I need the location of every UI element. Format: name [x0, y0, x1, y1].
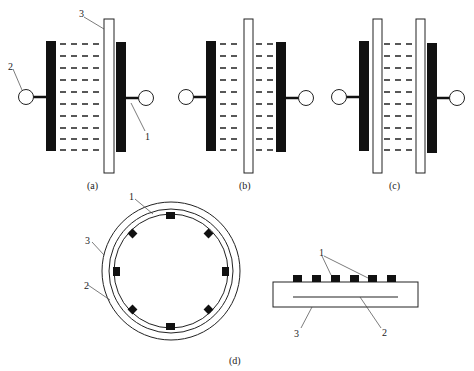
callout-1: 1 — [145, 131, 150, 142]
panel-caption-d: (d) — [229, 355, 241, 367]
panel-d-bar: 1 2 3 — [273, 247, 418, 339]
bar-callout-2: 2 — [382, 327, 387, 338]
bar-callout-3: 3 — [294, 328, 299, 339]
panel-c: (c) — [332, 19, 465, 192]
bar-callout-1: 1 — [319, 247, 324, 258]
panel-d-ring: 1 3 2 — [84, 191, 240, 340]
right-electrode — [116, 42, 126, 152]
membrane — [244, 19, 253, 173]
dashed-field-lines — [60, 44, 101, 150]
left-electrode — [46, 41, 56, 151]
membrane — [104, 19, 114, 173]
panel-caption-b: (b) — [239, 180, 251, 192]
terminal-right — [139, 91, 154, 106]
ring-electrodes — [113, 212, 229, 330]
panel-caption-a: (a) — [87, 180, 98, 192]
callout-2: 2 — [8, 61, 13, 72]
ring-callout-1: 1 — [129, 191, 134, 202]
ring-callout-3: 3 — [85, 235, 90, 246]
ring-callout-2: 2 — [84, 280, 89, 291]
panel-b: (b) — [179, 19, 314, 192]
terminal-left — [19, 90, 34, 105]
figure-canvas: 3 2 1 (a) (b) — [0, 0, 474, 371]
panel-a: 3 2 1 (a) — [8, 8, 154, 192]
panel-caption-c: (c) — [389, 180, 400, 192]
callout-3: 3 — [79, 8, 84, 19]
